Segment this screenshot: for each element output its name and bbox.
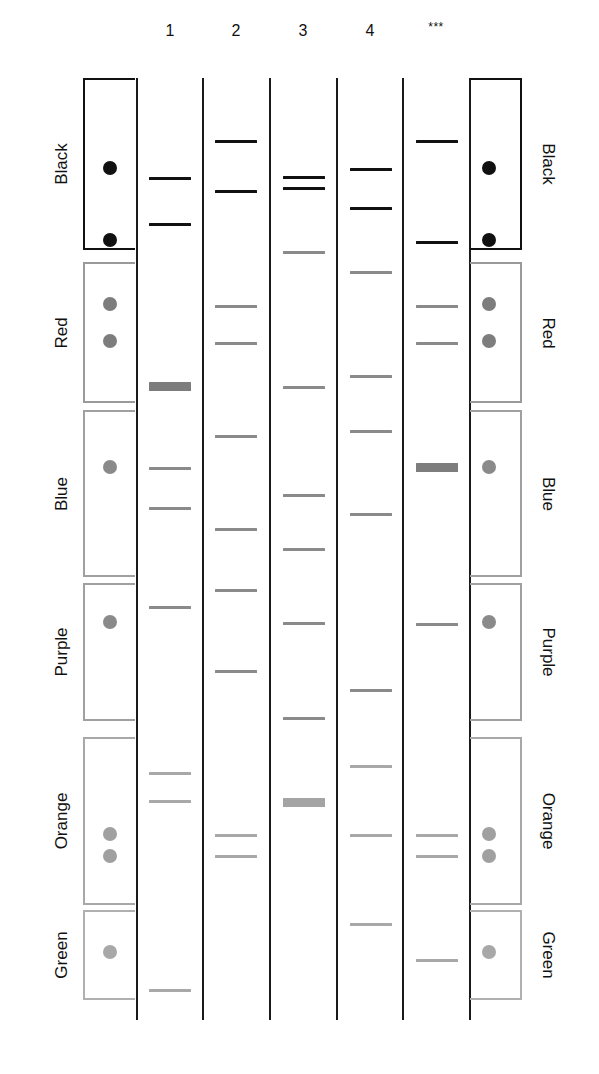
- band-lane-4: [350, 271, 392, 274]
- band-lane-4: [350, 430, 392, 433]
- band-lane-1: [149, 223, 191, 226]
- dot-black: [103, 233, 117, 247]
- band-lane-***: [416, 241, 458, 244]
- dot-black: [482, 161, 496, 175]
- band-lane-1: [149, 989, 191, 992]
- band-lane-2: [215, 834, 257, 837]
- legend-box-red: [470, 262, 522, 403]
- lane-divider: [402, 78, 404, 1020]
- band-lane-2: [215, 589, 257, 592]
- band-lane-***: [416, 305, 458, 308]
- lane-header-lane-2: 2: [232, 22, 241, 40]
- band-lane-***: [416, 834, 458, 837]
- dot-green: [103, 945, 117, 959]
- category-label-orange: Orange: [538, 793, 558, 850]
- band-lane-3: [283, 548, 325, 551]
- band-lane-***: [416, 959, 458, 962]
- lane-header-lane-3: 3: [299, 22, 308, 40]
- band-lane-2: [215, 342, 257, 345]
- band-lane-***: [416, 342, 458, 345]
- lane-header-lane-unknown: ***: [428, 20, 444, 34]
- lane-header-lane-1: 1: [166, 22, 175, 40]
- band-lane-2: [215, 670, 257, 673]
- category-label-purple: Purple: [52, 627, 72, 676]
- band-lane-3: [283, 187, 325, 190]
- dot-black: [482, 233, 496, 247]
- band-lane-1: [149, 467, 191, 470]
- category-label-blue: Blue: [52, 476, 72, 510]
- category-label-green: Green: [52, 931, 72, 978]
- band-lane-2: [215, 190, 257, 193]
- band-lane-4: [350, 765, 392, 768]
- band-lane-4: [350, 513, 392, 516]
- dot-blue: [103, 460, 117, 474]
- band-lane-4: [350, 168, 392, 171]
- category-label-green: Green: [538, 931, 558, 978]
- dot-red: [103, 334, 117, 348]
- category-label-purple: Purple: [538, 627, 558, 676]
- band-lane-3: [283, 251, 325, 254]
- dot-red: [482, 334, 496, 348]
- category-label-red: Red: [52, 317, 72, 348]
- band-lane-2: [215, 140, 257, 143]
- band-lane-4: [350, 689, 392, 692]
- dot-orange: [482, 849, 496, 863]
- category-label-red: Red: [538, 317, 558, 348]
- dot-orange: [103, 827, 117, 841]
- band-lane-4: [350, 834, 392, 837]
- dot-purple: [482, 615, 496, 629]
- legend-box-green: [470, 910, 522, 1000]
- band-lane-4: [350, 375, 392, 378]
- band-lane-3: [283, 176, 325, 179]
- legend-box-orange: [470, 737, 522, 905]
- band-lane-2: [215, 435, 257, 438]
- legend-box-blue: [83, 410, 135, 577]
- band-lane-1: [149, 800, 191, 803]
- legend-box-orange: [83, 737, 135, 905]
- band-lane-3: [283, 717, 325, 720]
- dot-orange: [103, 849, 117, 863]
- legend-box-black: [470, 78, 522, 250]
- lane-divider: [136, 78, 138, 1020]
- lane-divider: [336, 78, 338, 1020]
- category-label-blue: Blue: [538, 476, 558, 510]
- category-label-black: Black: [52, 143, 72, 185]
- dot-orange: [482, 827, 496, 841]
- band-lane-3: [283, 798, 325, 807]
- band-lane-3: [283, 386, 325, 389]
- legend-box-red: [83, 262, 135, 403]
- band-lane-2: [215, 528, 257, 531]
- legend-box-purple: [470, 583, 522, 721]
- band-lane-4: [350, 207, 392, 210]
- gel-diagram: 1234*** BlackRedBluePurpleOrangeGreen Bl…: [0, 0, 599, 1074]
- band-lane-***: [416, 855, 458, 858]
- band-lane-1: [149, 606, 191, 609]
- dot-green: [482, 945, 496, 959]
- lane-divider: [202, 78, 204, 1020]
- dot-red: [482, 297, 496, 311]
- band-lane-1: [149, 507, 191, 510]
- band-lane-1: [149, 177, 191, 180]
- band-lane-1: [149, 382, 191, 391]
- lane-divider: [269, 78, 271, 1020]
- band-lane-***: [416, 463, 458, 472]
- category-label-orange: Orange: [52, 793, 72, 850]
- dot-red: [103, 297, 117, 311]
- dot-purple: [103, 615, 117, 629]
- band-lane-3: [283, 622, 325, 625]
- dot-blue: [482, 460, 496, 474]
- band-lane-2: [215, 305, 257, 308]
- category-label-black: Black: [538, 143, 558, 185]
- legend-box-blue: [470, 410, 522, 577]
- band-lane-1: [149, 772, 191, 775]
- band-lane-***: [416, 140, 458, 143]
- legend-box-purple: [83, 583, 135, 721]
- band-lane-3: [283, 494, 325, 497]
- band-lane-***: [416, 623, 458, 626]
- lane-header-lane-4: 4: [366, 22, 375, 40]
- band-lane-4: [350, 923, 392, 926]
- dot-black: [103, 161, 117, 175]
- band-lane-2: [215, 855, 257, 858]
